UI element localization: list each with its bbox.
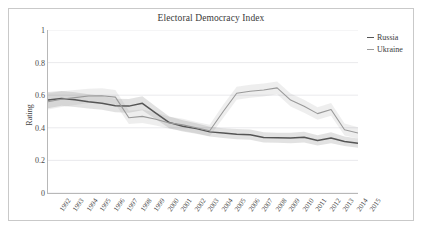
legend-item-label: Ukraine [377,45,403,54]
plot-area: 00.20.40.60.8119921993199419951996199719… [47,30,358,194]
x-axis-tick-label: 2005 [233,197,248,213]
x-axis-tick-label: 2010 [301,197,316,213]
x-axis-tick-label: 1992 [58,197,73,213]
x-axis-tick-label: 2011 [314,197,328,213]
x-axis-tick-label: 1999 [152,197,167,213]
x-axis-tick-label: 2009 [287,197,302,213]
x-axis-tick-label: 2013 [341,197,356,213]
x-axis-tick-label: 2001 [179,197,194,213]
x-axis-tick-label: 2004 [220,197,235,213]
x-axis-tick-label: 1997 [125,197,140,213]
y-axis-label: Rating [25,104,34,125]
x-axis-tick-label: 2003 [206,197,221,213]
figure-frame: Electoral Democracy Index Rating 00.20.4… [8,8,414,221]
legend-item-label: Russia [377,33,398,42]
x-axis-tick-label: 1996 [112,197,127,213]
x-axis-tick-label: 2012 [328,197,343,213]
x-axis-tick-label: 2007 [260,197,275,213]
x-axis-tick-label: 1993 [71,197,86,213]
x-axis-tick-label: 1994 [85,197,100,213]
y-axis-tick-label: 0.6 [35,91,45,100]
y-axis-tick-label: 0.2 [35,156,45,165]
legend-line-icon [367,49,374,50]
x-axis-tick-label: 2014 [354,197,369,213]
x-axis-tick-label: 1998 [139,197,154,213]
y-axis-tick-label: 0.4 [35,123,45,132]
x-axis-tick-label: 2000 [166,197,181,213]
chart-legend: RussiaUkraine [367,33,403,57]
x-axis-tick-label: 2002 [193,197,208,213]
plot-svg [48,30,358,193]
y-axis-tick-label: 0 [41,189,45,198]
x-axis-tick-label: 1995 [98,197,113,213]
legend-item-ukraine[interactable]: Ukraine [367,45,403,54]
chart-title: Electoral Democracy Index [9,13,413,23]
y-axis-tick-label: 1 [41,26,45,35]
legend-line-icon [367,37,374,38]
x-axis-tick-label: 2006 [247,197,262,213]
y-axis-tick-label: 0.8 [35,58,45,67]
x-axis-tick-label: 2015 [368,197,383,213]
legend-item-russia[interactable]: Russia [367,33,403,42]
x-axis-tick-label: 2008 [274,197,289,213]
